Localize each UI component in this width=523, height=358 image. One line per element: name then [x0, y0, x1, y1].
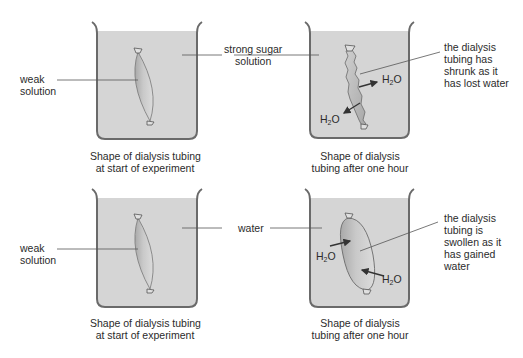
- h2o-label: H2O: [382, 73, 402, 86]
- caption-line: at start of experiment: [90, 329, 200, 341]
- weak-solution-label-top: weak solution: [20, 73, 56, 97]
- caption-line: at start of experiment: [90, 162, 200, 174]
- label-line: weak: [20, 73, 56, 85]
- label-line: solution: [20, 85, 56, 97]
- label-line: strong sugar: [224, 43, 282, 55]
- beaker-bottom-left: [57, 189, 222, 307]
- label-line: the dialysis: [444, 41, 509, 53]
- caption-bottom-left: Shape of dialysis tubing at start of exp…: [90, 317, 200, 341]
- label-line: solution: [224, 55, 282, 67]
- h2o-label: H2O: [320, 113, 340, 126]
- label-line: tubing has: [444, 53, 509, 65]
- label-line: water: [444, 260, 501, 272]
- caption-line: Shape of dialysis: [305, 317, 415, 329]
- label-line: weak: [20, 242, 56, 254]
- beaker-bottom-right: [270, 189, 438, 307]
- caption-line: tubing after one hour: [305, 162, 415, 174]
- caption-line: Shape of dialysis tubing: [90, 150, 200, 162]
- label-line: the dialysis: [444, 212, 501, 224]
- caption-bottom-right: Shape of dialysis tubing after one hour: [305, 317, 415, 341]
- h2o-label: H2O: [382, 273, 402, 286]
- label-line: has gained: [444, 248, 501, 260]
- label-line: swollen as it: [444, 236, 501, 248]
- label-line: solution: [20, 254, 56, 266]
- beaker-top-left: [57, 22, 222, 139]
- shrunk-tubing-label: the dialysis tubing has shrunk as it has…: [444, 41, 509, 89]
- h2o-label: H2O: [316, 250, 336, 263]
- caption-line: tubing after one hour: [305, 329, 415, 341]
- water-label: water: [238, 222, 264, 234]
- label-line: has lost water: [444, 77, 509, 89]
- caption-top-right: Shape of dialysis tubing after one hour: [305, 150, 415, 174]
- strong-sugar-solution-label: strong sugar solution: [224, 43, 282, 67]
- swollen-tubing-label: the dialysis tubing is swollen as it has…: [444, 212, 501, 272]
- label-line: tubing is: [444, 224, 501, 236]
- caption-line: Shape of dialysis: [305, 150, 415, 162]
- caption-top-left: Shape of dialysis tubing at start of exp…: [90, 150, 200, 174]
- label-line: shrunk as it: [444, 65, 509, 77]
- caption-line: Shape of dialysis tubing: [90, 317, 200, 329]
- weak-solution-label-bottom: weak solution: [20, 242, 56, 266]
